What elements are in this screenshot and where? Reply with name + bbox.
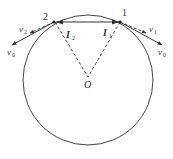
velocity-v0-sub-right: 0 bbox=[163, 52, 166, 58]
velocity-v2-label: v bbox=[19, 24, 23, 34]
impulse-I2-sub: 2 bbox=[72, 35, 75, 41]
velocity-v1-sub: 1 bbox=[154, 29, 157, 35]
impulse-I1-sub: 1 bbox=[109, 33, 112, 39]
radius-line-2 bbox=[55, 22, 88, 77]
velocity-v0-sub-left: 0 bbox=[12, 52, 15, 58]
point-1-label: 1 bbox=[122, 7, 127, 18]
impulse-arrow-2 bbox=[56, 20, 63, 25]
impulse-arrow-1 bbox=[112, 20, 119, 25]
center-label: O bbox=[84, 79, 91, 90]
velocity-v0-label-left: v bbox=[7, 47, 11, 57]
impulse-I1-label: I bbox=[102, 27, 108, 38]
impulse-I2-label: I bbox=[65, 29, 71, 40]
point-2-label: 2 bbox=[43, 11, 48, 22]
point-2-dot bbox=[52, 20, 55, 23]
point-1-dot bbox=[118, 20, 121, 23]
velocity-v0-label-right: v bbox=[158, 47, 162, 57]
circular-motion-diagram: 1 2 I 1 I 2 v 1 v 0 v 2 v 0 O bbox=[0, 0, 173, 159]
velocity-v2-sub: 2 bbox=[24, 29, 27, 35]
velocity-v1-label: v bbox=[149, 24, 153, 34]
